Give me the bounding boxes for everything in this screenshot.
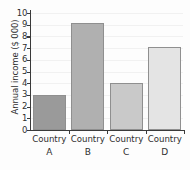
gridline xyxy=(31,13,183,14)
y-axis-line xyxy=(30,10,31,130)
x-axis-label: CountryA xyxy=(30,134,69,158)
x-axis-label-name: Country xyxy=(30,134,69,146)
y-axis-title: Annual income ($ 000) xyxy=(10,5,20,129)
y-tick-label: 8 xyxy=(22,31,27,41)
gridline xyxy=(31,25,183,26)
x-axis-label-key: A xyxy=(30,147,69,159)
bar-chart: Annual income ($ 000) 012345678910 Count… xyxy=(0,0,190,170)
gridline xyxy=(31,36,183,37)
y-tick-label: 3 xyxy=(22,89,27,99)
x-axis-label: CountryB xyxy=(69,134,108,158)
bar xyxy=(33,95,66,130)
bar xyxy=(148,47,181,130)
x-axis-labels: CountryACountryBCountryCCountryD xyxy=(30,134,186,168)
bar xyxy=(110,83,143,130)
bar xyxy=(71,23,104,130)
y-tick-label: 7 xyxy=(22,43,27,53)
y-tick-label: 0 xyxy=(22,125,27,135)
y-tick-label: 4 xyxy=(22,78,27,88)
y-tick-label: 9 xyxy=(22,19,27,29)
x-axis-label: CountryD xyxy=(146,134,185,158)
y-tick-label: 1 xyxy=(22,113,27,123)
x-axis-label: CountryC xyxy=(107,134,146,158)
x-axis-label-key: B xyxy=(69,147,108,159)
y-tick-label: 5 xyxy=(22,66,27,76)
y-tick-label: 2 xyxy=(22,101,27,111)
x-axis-label-name: Country xyxy=(146,134,185,146)
x-axis-label-key: C xyxy=(107,147,146,159)
x-axis-label-key: D xyxy=(146,147,185,159)
y-tick-label: 10 xyxy=(17,8,28,18)
x-axis-label-name: Country xyxy=(69,134,108,146)
x-axis-label-name: Country xyxy=(107,134,146,146)
y-tick-label: 6 xyxy=(22,54,27,64)
plot-area: 012345678910 xyxy=(30,10,186,133)
